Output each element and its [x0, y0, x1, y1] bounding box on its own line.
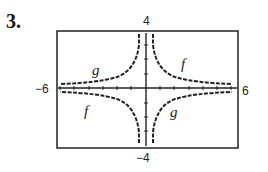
- viewing-window-frame: [57, 31, 238, 148]
- label-g-lower: g: [170, 104, 178, 121]
- curve-f: [60, 92, 139, 143]
- graph-plot: [0, 0, 268, 172]
- curve-f: [153, 34, 232, 84]
- label-f-lower: f: [84, 103, 88, 120]
- label-f-upper: f: [181, 56, 185, 73]
- curve-g: [153, 92, 232, 143]
- label-g-upper: g: [92, 62, 100, 79]
